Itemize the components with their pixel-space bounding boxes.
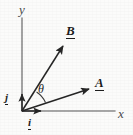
x-axis-label: x bbox=[118, 107, 124, 120]
unit-vector-j-label: j bbox=[5, 92, 8, 105]
angle-theta-label: θ bbox=[38, 83, 44, 95]
vector-diagram-figure: y x B A i j θ bbox=[0, 0, 133, 135]
unit-vector-i-label: i bbox=[28, 117, 31, 130]
vector-b-label: B bbox=[66, 24, 75, 39]
vector-b-arrow bbox=[22, 46, 63, 111]
y-axis-label: y bbox=[19, 3, 25, 16]
vector-a-label: A bbox=[95, 76, 104, 91]
vector-a-arrow bbox=[22, 89, 89, 111]
vector-diagram-canvas bbox=[0, 0, 133, 135]
